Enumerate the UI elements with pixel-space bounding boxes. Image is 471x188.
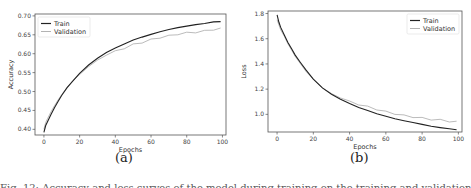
legend-entry-validation: Validation — [54, 28, 86, 36]
y-tick-label: 1.0 — [254, 110, 264, 117]
y-axis-label: Loss — [240, 64, 248, 79]
series-validation-line — [277, 20, 457, 122]
y-tick-label: 1.2 — [254, 85, 264, 92]
x-tick-label: 80 — [183, 138, 191, 145]
x-tick-label: 40 — [346, 135, 354, 142]
panel-label-b: (b) — [350, 150, 368, 165]
x-tick-label: 40 — [112, 138, 120, 145]
figure-caption: Fig. 12: Accuracy and loss curves of the… — [0, 182, 471, 188]
x-tick-label: 80 — [418, 135, 426, 142]
accuracy-chart: 0204060801000.400.450.500.550.600.650.70… — [7, 12, 228, 154]
legend-entry-train: Train — [53, 20, 70, 28]
legend: TrainValidation — [38, 17, 90, 37]
loss-chart: 0204060801001.01.21.41.61.8EpochsLossTra… — [240, 10, 464, 151]
y-tick-label: 0.45 — [18, 106, 32, 113]
x-tick-label: 60 — [382, 135, 390, 142]
x-tick-label: 100 — [453, 135, 465, 142]
y-tick-label: 0.55 — [18, 69, 32, 76]
y-axis-label: Accuracy — [7, 60, 15, 90]
legend-entry-validation: Validation — [423, 25, 455, 33]
y-tick-label: 1.6 — [254, 35, 264, 42]
figure-canvas: 0204060801000.400.450.500.550.600.650.70… — [0, 0, 471, 188]
y-tick-label: 0.60 — [18, 50, 32, 57]
y-tick-label: 1.4 — [254, 60, 264, 67]
x-tick-label: 0 — [42, 138, 46, 145]
legend-entry-train: Train — [422, 17, 439, 25]
x-tick-label: 60 — [147, 138, 155, 145]
y-tick-label: 0.40 — [18, 125, 32, 132]
y-tick-label: 0.50 — [18, 88, 32, 95]
y-tick-label: 1.8 — [254, 10, 264, 17]
legend: TrainValidation — [407, 14, 459, 34]
x-tick-label: 20 — [310, 135, 318, 142]
x-tick-label: 100 — [217, 138, 229, 145]
x-tick-label: 0 — [275, 135, 279, 142]
panel-label-a: (a) — [115, 150, 133, 165]
series-validation-line — [44, 28, 221, 129]
y-tick-label: 0.70 — [18, 12, 32, 19]
series-train-line — [44, 22, 221, 133]
y-tick-label: 0.65 — [18, 31, 32, 38]
x-tick-label: 20 — [76, 138, 84, 145]
